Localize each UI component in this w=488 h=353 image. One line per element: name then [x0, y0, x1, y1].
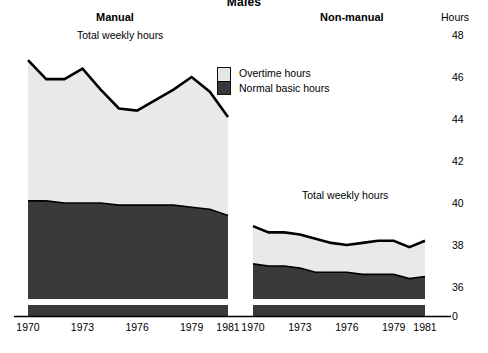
x-tick-nonmanual-1970: 1970 — [233, 321, 273, 333]
legend: Overtime hours Normal basic hours — [217, 66, 367, 100]
x-tick-nonmanual-1973: 1973 — [280, 321, 320, 333]
x-tick-manual-1973: 1973 — [63, 321, 103, 333]
panel-title-manual: Manual — [96, 12, 134, 23]
nonmanual-axis-break-band — [253, 299, 425, 305]
x-tick-nonmanual-1981: 1981 — [405, 321, 445, 333]
legend-swatch-icon — [217, 67, 231, 95]
legend-label-overtime: Overtime hours — [239, 67, 311, 79]
manual-basic-area — [28, 201, 228, 316]
x-tick-manual-1979: 1979 — [172, 321, 212, 333]
manual-axis-break-band — [28, 299, 228, 305]
y-tick-38: 38 — [452, 239, 464, 251]
y-tick-36: 36 — [452, 281, 464, 293]
panel-manual — [28, 60, 228, 316]
y-tick-48: 48 — [452, 29, 464, 41]
y-tick-44: 44 — [452, 113, 464, 125]
y-tick-0: 0 — [452, 310, 458, 322]
manual-series-label: Total weekly hours — [77, 30, 163, 41]
nonmanual-series-label: Total weekly hours — [302, 190, 388, 201]
legend-label-basic: Normal basic hours — [239, 82, 329, 94]
x-tick-manual-1970: 1970 — [8, 321, 48, 333]
legend-swatch-basic — [218, 81, 230, 94]
chart-svg — [0, 0, 488, 353]
y-tick-40: 40 — [452, 197, 464, 209]
y-tick-46: 46 — [452, 71, 464, 83]
chart-canvas: Males Manual Non-manual Hours Total week… — [0, 0, 488, 353]
panel-nonmanual — [253, 226, 425, 316]
x-tick-nonmanual-1976: 1976 — [327, 321, 367, 333]
page-title: Males — [0, 0, 488, 8]
legend-swatch-overtime — [218, 68, 230, 81]
panel-title-nonmanual: Non-manual — [320, 12, 384, 23]
y-tick-42: 42 — [452, 155, 464, 167]
y-axis-label: Hours — [441, 12, 469, 23]
x-tick-manual-1976: 1976 — [117, 321, 157, 333]
